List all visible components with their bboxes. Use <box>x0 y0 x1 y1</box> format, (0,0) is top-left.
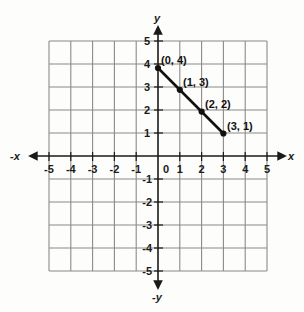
data-point-1-3[interactable] <box>177 87 183 93</box>
y-tick-label: 3 <box>144 81 150 93</box>
y-tick-label: -3 <box>142 219 152 231</box>
x-tick-label: -3 <box>88 163 98 175</box>
data-point-3-1[interactable] <box>220 130 226 136</box>
y-tick-label: 2 <box>144 104 150 116</box>
y-tick-label: 4 <box>144 58 151 70</box>
data-point-2-2[interactable] <box>199 109 205 115</box>
x-tick-label: 4 <box>242 163 249 175</box>
x-tick-label: 1 <box>177 163 183 175</box>
data-point-label-2-2: (2, 2) <box>205 98 231 110</box>
y-axis-negative-label: -y <box>152 291 163 303</box>
data-point-label-0-4: (0, 4) <box>161 54 187 66</box>
x-tick-label: -4 <box>66 163 77 175</box>
x-tick-label: 2 <box>199 163 205 175</box>
y-tick-label: -5 <box>142 265 152 277</box>
data-point-label-1-3: (1, 3) <box>183 76 209 88</box>
y-tick-label: 1 <box>144 127 150 139</box>
y-tick-label: -4 <box>142 242 153 254</box>
coordinate-plane-figure: -5 -4 -3 -2 -1 0 1 2 3 4 5 5 4 3 2 1 -1 … <box>0 0 304 312</box>
x-tick-label: -2 <box>110 163 120 175</box>
x-axis-negative-label: -x <box>10 150 21 162</box>
y-tick-label: -1 <box>142 173 152 185</box>
data-point-label-3-1: (3, 1) <box>227 120 253 132</box>
x-tick-label: -1 <box>131 163 141 175</box>
x-tick-label-zero: 0 <box>163 163 169 175</box>
y-tick-label: 5 <box>144 35 150 47</box>
x-tick-label: 5 <box>264 163 270 175</box>
x-axis-positive-label: x <box>287 150 295 162</box>
y-tick-label: -2 <box>142 196 152 208</box>
graph-canvas: -5 -4 -3 -2 -1 0 1 2 3 4 5 5 4 3 2 1 -1 … <box>0 0 304 312</box>
y-axis-positive-label: y <box>153 12 161 24</box>
x-tick-label: 3 <box>220 163 226 175</box>
x-tick-label: -5 <box>44 163 54 175</box>
